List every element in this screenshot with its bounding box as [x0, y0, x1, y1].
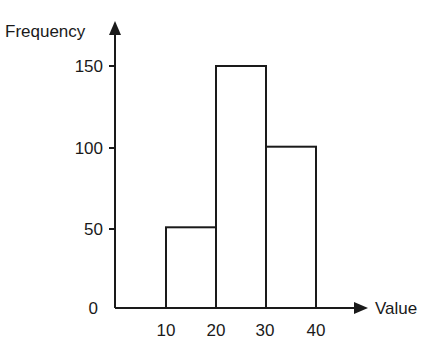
x-axis-arrow-icon: [354, 302, 368, 314]
histogram-bar: [166, 227, 216, 308]
origin-label: 0: [89, 299, 98, 318]
x-tick-label-40: 40: [307, 321, 326, 340]
x-tick-label-20: 20: [207, 321, 226, 340]
y-tick-label-150: 150: [75, 57, 103, 76]
histogram-bar: [266, 147, 316, 308]
x-axis-label: Value: [375, 299, 417, 318]
histogram-chart: Frequency 150 100 50 0 10 20 30 40 Value: [0, 0, 445, 351]
y-axis-arrow-icon: [109, 21, 121, 35]
x-tick-label-30: 30: [256, 321, 275, 340]
histogram-bar: [216, 66, 266, 308]
x-tick-label-10: 10: [157, 321, 176, 340]
y-tick-label-50: 50: [84, 220, 103, 239]
y-tick-label-100: 100: [75, 139, 103, 158]
bars: [166, 66, 316, 308]
y-axis-label: Frequency: [5, 22, 86, 41]
